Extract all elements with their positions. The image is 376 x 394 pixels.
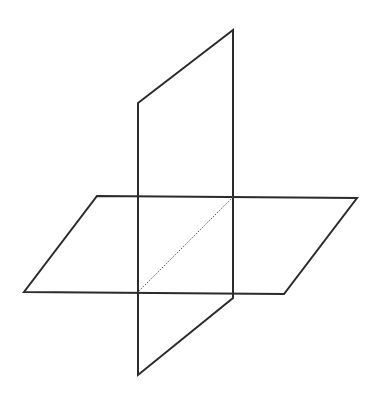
horizontal-plane	[24, 196, 357, 294]
vertical-plane	[138, 30, 233, 375]
diagram-canvas	[0, 0, 376, 394]
intersection-line	[138, 197, 233, 292]
two-planes-diagram	[0, 0, 376, 394]
